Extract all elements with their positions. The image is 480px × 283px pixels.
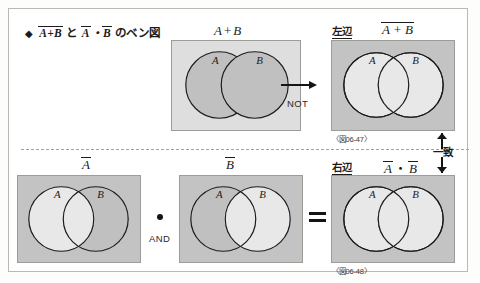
title-suffix: のベン図 [115, 27, 160, 39]
title-term-not-a: A [81, 26, 91, 40]
formula-not-a-or-b: A + B [381, 22, 414, 38]
not-arrow-icon [281, 80, 317, 90]
not-operator-label: NOT [287, 98, 308, 109]
left-side-label: 左辺 [332, 23, 352, 39]
venn-diagram-not-a-and-not-b: A B [332, 176, 454, 262]
circle-label-b: B [97, 189, 104, 201]
circle-label-a: A [215, 189, 223, 201]
formula-and-op: ・ [393, 161, 408, 176]
venn-panel-not-a: A B [17, 175, 141, 263]
venn-diagram-not-a-or-b: A B [332, 41, 454, 130]
figure-number-06-48: 〈図06-48〉 [332, 265, 371, 276]
and-operator-dot-icon [157, 214, 163, 220]
title-term-not-b: B [102, 26, 112, 40]
circle-label-b: B [412, 55, 419, 67]
circle-label-b: B [259, 189, 266, 201]
circle-label-a: A [211, 55, 219, 67]
venn-diagram-not-b: A B [180, 176, 302, 262]
circle-label-a: A [368, 189, 376, 201]
circle-label-a: A [368, 55, 376, 67]
title-term-and-op: ・ [91, 27, 102, 39]
right-side-label: 右辺 [332, 159, 352, 175]
venn-panel-not-a-or-b: A B [331, 40, 455, 131]
title-connector: と [66, 27, 77, 39]
match-arrow-down-icon [437, 157, 447, 173]
figure-title: ◆ A+B と A・B のベン図 [25, 24, 160, 40]
equals-sign-icon [309, 212, 326, 222]
title-term-not-a-or-b: A+B [38, 26, 63, 40]
diamond-bullet-icon: ◆ [25, 28, 33, 39]
venn-panel-not-b: A B [179, 175, 303, 263]
caption-not-a: A [81, 157, 91, 173]
section-divider [21, 149, 469, 150]
circle-label-b: B [256, 55, 263, 67]
venn-panel-not-a-and-not-b: A B [331, 175, 455, 263]
and-operator-label: AND [149, 233, 170, 244]
figure-number-06-47: 〈図06-47〉 [332, 133, 371, 144]
venn-diagram-not-a: A B [18, 176, 140, 262]
circle-label-a: A [53, 189, 61, 201]
caption-a-or-b: A+B [214, 23, 241, 39]
circle-label-b: B [412, 189, 419, 201]
figure-frame: ◆ A+B と A・B のベン図 A+B A B NOT 左辺 A + B [8, 8, 468, 272]
caption-not-b: B [225, 157, 235, 173]
